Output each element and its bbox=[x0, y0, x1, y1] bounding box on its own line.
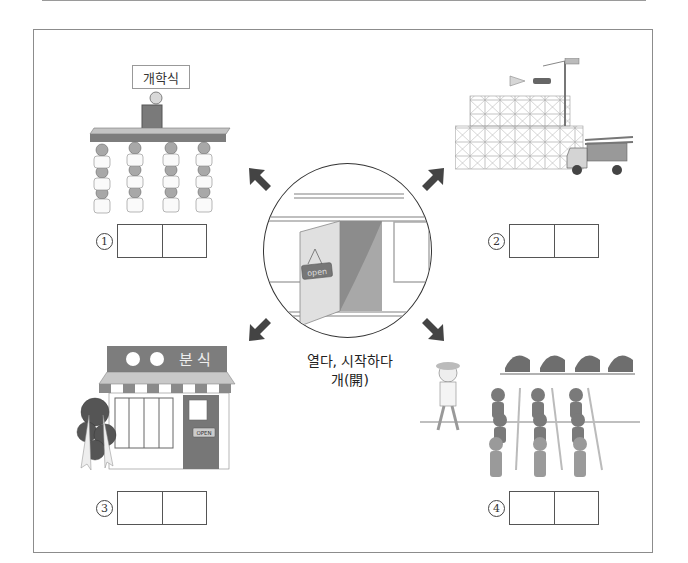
question-number-4: 4 bbox=[488, 500, 505, 517]
question-number-3: 3 bbox=[96, 500, 113, 517]
answer-box-3: 3 bbox=[96, 491, 207, 525]
top-divider bbox=[42, 0, 646, 1]
answer-3-char-1[interactable] bbox=[118, 492, 162, 524]
door-sign-text: OPEN bbox=[196, 430, 211, 436]
meaning-text: 열다, 시작하다 bbox=[290, 352, 410, 371]
answer-cells-3 bbox=[117, 491, 207, 525]
answer-cells-1 bbox=[117, 224, 207, 258]
hanja-text: 개(開) bbox=[290, 371, 410, 390]
answer-3-char-2[interactable] bbox=[162, 492, 206, 524]
question-number-1: 1 bbox=[96, 233, 113, 250]
amusement-ride-illustration bbox=[420, 340, 640, 485]
arrow-up-right-icon bbox=[420, 166, 446, 192]
answer-4-char-1[interactable] bbox=[510, 492, 554, 524]
answer-2-char-1[interactable] bbox=[510, 225, 554, 257]
answer-cells-2 bbox=[509, 224, 599, 258]
answer-1-char-2[interactable] bbox=[162, 225, 206, 257]
answer-2-char-2[interactable] bbox=[554, 225, 598, 257]
question-number-2: 2 bbox=[488, 233, 505, 250]
answer-box-2: 2 bbox=[488, 224, 599, 258]
answer-cells-4 bbox=[509, 491, 599, 525]
opening-ceremony-illustration bbox=[80, 88, 240, 218]
answer-box-1: 1 bbox=[96, 224, 207, 258]
center-caption: 열다, 시작하다 개(開) bbox=[290, 352, 410, 390]
answer-box-4: 4 bbox=[488, 491, 599, 525]
construction-illustration bbox=[455, 58, 645, 183]
shop-sign-text: 분 식 bbox=[179, 351, 212, 369]
snack-shop-illustration: 분 식 OPEN bbox=[75, 340, 250, 475]
answer-4-char-2[interactable] bbox=[554, 492, 598, 524]
center-open-door-illustration: open bbox=[263, 163, 432, 338]
answer-1-char-1[interactable] bbox=[118, 225, 162, 257]
arrow-down-left-icon bbox=[247, 317, 273, 343]
arrow-up-left-icon bbox=[247, 166, 273, 192]
ceremony-sign: 개학식 bbox=[132, 65, 190, 89]
